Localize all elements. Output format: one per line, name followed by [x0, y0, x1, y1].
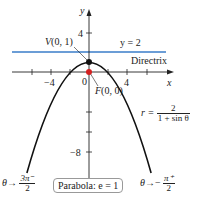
directrix-label: Directrix — [131, 56, 167, 66]
right-limit-label: θ→− π⁺2 — [140, 174, 175, 194]
y-tick-4: 4 — [78, 29, 83, 39]
x-axis-arrow-icon — [167, 70, 174, 75]
vertex-label: VV(0, 1)(0, 1) — [45, 37, 73, 47]
y-tick-neg8: −8 — [70, 148, 81, 158]
polar-equation: r = 21 + sin θ — [141, 104, 190, 124]
y-axis-arrow-icon — [87, 9, 92, 16]
focus-label: F(0, 0) — [95, 86, 123, 96]
left-limit-label: θ→ 3π⁻2 — [2, 174, 35, 194]
parabola-plot — [0, 0, 205, 199]
x-axis-label: x — [167, 78, 171, 88]
focus-point — [86, 69, 92, 75]
caption-box: Parabola: e = 1 — [53, 178, 123, 193]
directrix-equation: y = 2 — [120, 38, 141, 48]
y-axis-label: y — [80, 6, 84, 16]
vertex-leader-line — [74, 47, 88, 61]
vertex-point — [86, 59, 92, 65]
x-tick-0: 0 — [82, 77, 87, 87]
x-tick-4: 4 — [124, 78, 129, 88]
x-tick-neg4: −4 — [44, 78, 55, 88]
